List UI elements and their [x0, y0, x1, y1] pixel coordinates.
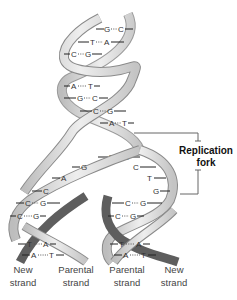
svg-text:G: G — [104, 25, 110, 34]
svg-text:A: A — [136, 240, 142, 249]
svg-text:A: A — [71, 82, 77, 91]
svg-text:T: T — [49, 251, 54, 260]
svg-text:A: A — [123, 251, 129, 260]
svg-text:strand: strand — [114, 277, 140, 288]
svg-text:New: New — [13, 264, 32, 275]
svg-text:C: C — [115, 212, 121, 221]
svg-text:strand: strand — [161, 277, 187, 288]
svg-text:G: G — [77, 94, 83, 103]
svg-text:G: G — [153, 187, 159, 196]
svg-text:C: C — [17, 212, 23, 221]
svg-text:T: T — [147, 174, 152, 183]
svg-text:C: C — [125, 199, 131, 208]
strand-labels: New strand Parental strand Parental stra… — [10, 264, 187, 288]
svg-text:G: G — [40, 199, 46, 208]
svg-text:A: A — [109, 119, 115, 128]
svg-text:New: New — [164, 264, 183, 275]
svg-text:C: C — [92, 94, 98, 103]
svg-text:A: A — [31, 251, 37, 260]
svg-text:A: A — [43, 240, 49, 249]
svg-text:T: T — [122, 119, 127, 128]
svg-text:C: C — [133, 163, 139, 172]
svg-text:A: A — [61, 174, 67, 183]
svg-text:C: C — [25, 199, 31, 208]
replication-fork-label-line2: fork — [197, 157, 216, 168]
svg-text:Parental: Parental — [58, 264, 93, 275]
svg-text:T: T — [27, 240, 32, 249]
svg-text:T: T — [141, 251, 146, 260]
svg-text:G: G — [81, 163, 87, 172]
svg-text:C: C — [118, 25, 124, 34]
svg-text:G: G — [33, 212, 39, 221]
svg-text:strand: strand — [63, 277, 89, 288]
dna-replication-diagram: G C T A C G A T G C C G A — [0, 0, 237, 300]
svg-text:C: C — [43, 187, 49, 196]
svg-text:T: T — [119, 240, 124, 249]
svg-text:T: T — [88, 82, 93, 91]
replication-fork-label-line1: Replication — [179, 145, 233, 156]
svg-text:G: G — [140, 199, 146, 208]
svg-text:C: C — [93, 107, 99, 116]
svg-text:strand: strand — [10, 277, 36, 288]
svg-text:C: C — [71, 50, 77, 59]
svg-text:A: A — [104, 38, 110, 47]
svg-text:G: G — [107, 107, 113, 116]
svg-text:T: T — [90, 38, 95, 47]
svg-text:Parental: Parental — [109, 264, 144, 275]
svg-text:G: G — [85, 50, 91, 59]
svg-text:G: G — [130, 212, 136, 221]
